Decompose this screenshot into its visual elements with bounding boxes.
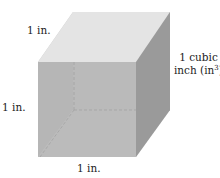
- volume-unit-text: inch (in: [174, 64, 214, 76]
- left-edge-label: 1 in.: [2, 101, 25, 114]
- bottom-edge-label: 1 in.: [77, 162, 100, 175]
- volume-label-line1: 1 cubic: [174, 51, 220, 64]
- volume-label-line2: inch (in3): [174, 64, 220, 77]
- volume-close-paren: ): [219, 64, 220, 76]
- front-face: [38, 62, 136, 157]
- volume-label: 1 cubic inch (in3): [174, 51, 220, 77]
- top-edge-label: 1 in.: [27, 24, 50, 37]
